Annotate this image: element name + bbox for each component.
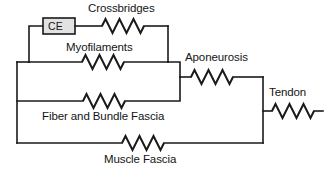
- wire-node-to-aponeurosis: [168, 62, 180, 77]
- label-muscle-fascia: Muscle Fascia: [104, 153, 176, 166]
- spring-aponeurosis: [191, 70, 233, 84]
- wire-fiber-fascia-right-lead: [125, 77, 180, 101]
- label-crossbridges: Crossbridges: [88, 2, 155, 15]
- label-fiber-and-bundle-fascia: Fiber and Bundle Fascia: [42, 110, 164, 123]
- spring-crossbridges: [102, 19, 144, 33]
- wire-ce-left-lead: [29, 26, 43, 62]
- spring-tendon: [272, 104, 314, 118]
- label-aponeurosis: Aponeurosis: [185, 51, 248, 64]
- spring-fiber-bundle-fascia: [83, 94, 125, 108]
- diagram-canvas: CE Crossbridges Myofilaments Aponeurosis…: [0, 0, 325, 176]
- spring-muscle-fascia: [122, 136, 164, 150]
- spring-myofilaments: [82, 55, 124, 69]
- label-tendon: Tendon: [269, 86, 306, 99]
- label-ce: CE: [48, 20, 63, 32]
- label-myofilaments: Myofilaments: [66, 41, 133, 54]
